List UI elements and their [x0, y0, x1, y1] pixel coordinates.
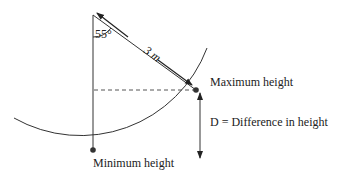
min-height-dot — [90, 147, 96, 153]
pendulum-diagram: 3 m 55° Maximum height D = Difference in… — [0, 0, 339, 180]
min-height-label: Minimum height — [93, 156, 175, 170]
difference-label: D = Difference in height — [210, 115, 329, 129]
length-arrow-lower — [158, 60, 192, 85]
max-height-dot — [193, 87, 199, 93]
angle-label: 55° — [95, 27, 112, 41]
swing-arc — [14, 48, 207, 136]
max-height-label: Maximum height — [210, 75, 294, 89]
